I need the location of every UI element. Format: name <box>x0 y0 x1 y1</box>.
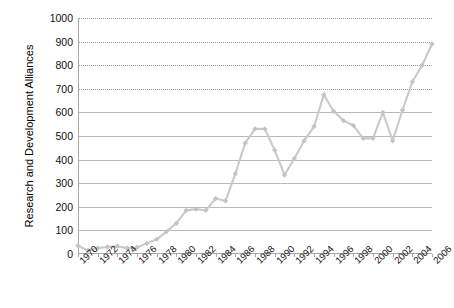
data-series-line <box>78 18 432 254</box>
y-tick-label: 1000 <box>50 13 73 24</box>
data-point-marker <box>390 138 395 143</box>
plot-area: 01002003004005006007008009001000 1970197… <box>78 18 432 254</box>
y-axis-title: Research and Development Alliances <box>20 18 38 254</box>
data-point-marker <box>380 110 385 115</box>
series-line <box>78 44 432 251</box>
data-point-marker <box>223 198 228 203</box>
data-point-marker <box>233 171 238 176</box>
y-tick-label: 600 <box>55 107 73 118</box>
data-point-marker <box>370 136 375 141</box>
y-tick-label: 500 <box>55 131 73 142</box>
y-tick-label: 700 <box>55 84 73 95</box>
y-tick-label: 400 <box>55 154 73 165</box>
x-axis-ticks: 1970197219741976197819801982198419861988… <box>78 254 432 308</box>
y-tick-label: 800 <box>55 60 73 71</box>
y-tick-label: 900 <box>55 36 73 47</box>
data-point-marker <box>400 107 405 112</box>
data-point-marker <box>193 206 198 211</box>
y-tick-label: 0 <box>67 249 73 260</box>
y-tick-label: 100 <box>55 225 73 236</box>
y-tick-label: 200 <box>55 202 73 213</box>
x-tick-label: 2006 <box>431 243 454 266</box>
y-tick-label: 300 <box>55 178 73 189</box>
